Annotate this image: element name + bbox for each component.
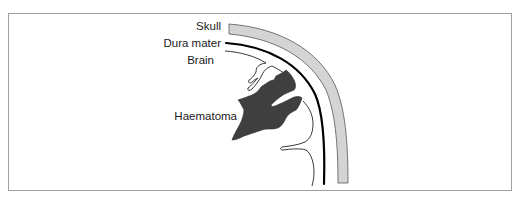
label-haematoma: Haematoma bbox=[172, 111, 237, 123]
label-brain: Brain bbox=[178, 55, 214, 67]
haematoma-blob bbox=[232, 70, 302, 140]
label-skull: Skull bbox=[188, 21, 221, 33]
haematoma-diagram bbox=[0, 0, 521, 200]
label-dura-mater: Dura mater bbox=[155, 38, 221, 50]
